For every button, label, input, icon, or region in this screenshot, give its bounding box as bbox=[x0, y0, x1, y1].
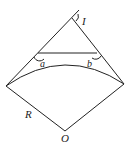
angle-arc-i bbox=[76, 14, 78, 21]
left-tangent-line bbox=[6, 10, 79, 86]
angle-arc-b bbox=[92, 56, 101, 59]
label-apex-i: I bbox=[81, 15, 87, 27]
label-radius-r: R bbox=[24, 108, 32, 120]
radius-right bbox=[65, 84, 124, 131]
label-angle-b: b bbox=[87, 58, 92, 69]
diagram-canvas: I a b R O bbox=[0, 0, 130, 142]
radius-left bbox=[6, 86, 65, 131]
label-angle-a: a bbox=[40, 58, 45, 69]
right-tangent-line bbox=[72, 18, 124, 84]
label-center-o: O bbox=[61, 132, 69, 142]
